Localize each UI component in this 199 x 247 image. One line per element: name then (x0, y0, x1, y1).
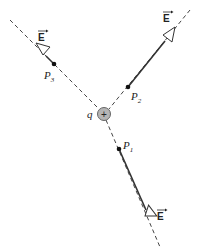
e-vector-arrow-icon (165, 209, 168, 212)
label-p2: P2 (130, 90, 142, 105)
point-p3-dot (52, 62, 57, 67)
e-label-p3: E (38, 32, 45, 43)
e-vector-p2-shaft (128, 41, 165, 87)
arrowhead-p3-icon (36, 43, 50, 55)
e-vector-p1-shaft (119, 149, 146, 210)
arrowhead-p2-icon (163, 27, 175, 42)
charge-sign: + (101, 109, 107, 120)
e-vector-arrow-icon (171, 11, 174, 14)
charge-q: + (98, 108, 111, 121)
label-p1: P1 (122, 139, 133, 154)
arrowheads (36, 27, 175, 220)
point-p2-dot (126, 85, 131, 90)
point-p1-dot (117, 147, 122, 152)
e-label-p1: E (157, 211, 164, 222)
field-vectors (46, 41, 165, 210)
field-line-lower (106, 120, 160, 247)
field-diagram: + q P3 P2 P1 E E E (0, 0, 199, 247)
e-vector-arrow-icon (46, 30, 49, 33)
e-label-p2: E (163, 13, 170, 24)
charge-label: q (87, 108, 93, 120)
label-p3: P3 (43, 69, 55, 84)
point-dots (52, 62, 131, 152)
